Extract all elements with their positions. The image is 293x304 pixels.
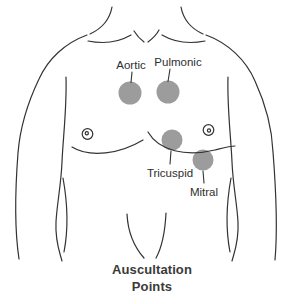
caption-line-1: Auscultation (112, 262, 192, 277)
nipple-right-center-icon (207, 129, 210, 132)
aortic-leader-line (131, 72, 132, 83)
inner-arm-right-line (228, 77, 238, 261)
auscultation-points-figure: Aortic Pulmonic Tricuspid Mitral Auscult… (0, 0, 293, 304)
clavicle-right-line (162, 35, 205, 42)
neck-right-line (181, 7, 203, 34)
abdomen-left-line (127, 214, 144, 258)
figure-caption: Auscultation Points (112, 262, 192, 294)
auscultation-diagram: Aortic Pulmonic Tricuspid Mitral Auscult… (0, 0, 293, 304)
aortic-label: Aortic (116, 59, 146, 71)
nipple-left-center-icon (85, 132, 88, 135)
tricuspid-leader-line (170, 151, 171, 164)
outer-arm-right-line (206, 35, 276, 260)
pulmonic-leader-line (168, 69, 170, 82)
caption-line-2: Points (132, 279, 172, 294)
elbow-left-line (63, 178, 67, 252)
breast-left-line (72, 140, 143, 153)
tricuspid-label: Tricuspid (147, 167, 193, 179)
pulmonic-point-marker (157, 81, 180, 104)
sternal-notch-right-line (148, 30, 159, 42)
pulmonic-label: Pulmonic (154, 56, 202, 68)
breast-right-line (148, 132, 235, 153)
elbow-right-line (227, 178, 231, 252)
nipple-right-icon (203, 125, 214, 136)
torso-outline (16, 7, 277, 261)
neck-left-line (90, 7, 112, 34)
sternal-notch-left-line (134, 31, 144, 42)
abdomen-right-line (156, 213, 166, 258)
aortic-point-marker (119, 82, 142, 105)
inner-arm-left-line (56, 77, 66, 261)
mitral-leader-line (203, 171, 204, 183)
outer-arm-left-line (16, 35, 88, 259)
mitral-label: Mitral (190, 186, 218, 198)
auscultation-point-markers (119, 81, 214, 171)
clavicle-left-line (88, 35, 131, 42)
